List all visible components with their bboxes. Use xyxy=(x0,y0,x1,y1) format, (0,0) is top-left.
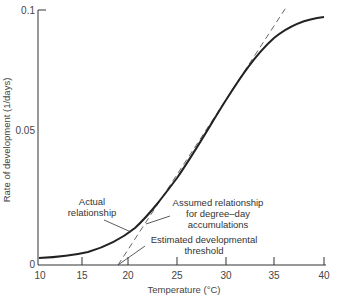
x-tick-label: 10 xyxy=(34,270,46,281)
annotation-assumed-line1: Assumed relationship xyxy=(173,197,264,208)
x-tick-label: 30 xyxy=(220,270,232,281)
chart: 0.1 0.05 0 10 15 20 25 30 35 40 Temperat… xyxy=(0,0,342,298)
y-tick-label: 0 xyxy=(29,259,35,270)
axes xyxy=(38,10,326,265)
annotation-threshold-line2: threshold xyxy=(184,245,223,256)
y-tick-label: 0.05 xyxy=(16,125,36,136)
x-tick-label: 40 xyxy=(318,270,330,281)
x-tick-label: 15 xyxy=(76,270,88,281)
annotation-assumed-line3: accumulations xyxy=(188,219,249,230)
actual-relationship-curve xyxy=(39,17,324,258)
x-axis-title: Temperature (°C) xyxy=(148,284,221,295)
annotation-actual-line2: relationship xyxy=(68,207,117,218)
y-axis-title: Rate of development (1/days) xyxy=(1,78,12,203)
x-tick-label: 25 xyxy=(171,270,183,281)
annotation-assumed-line2: for degree–day xyxy=(186,208,250,219)
annotation-actual-line1: Actual xyxy=(79,196,105,207)
annotation-threshold-line1: Estimated developmental xyxy=(151,234,258,245)
x-tick-label: 35 xyxy=(268,270,280,281)
annotation-leader-assumed xyxy=(146,216,170,224)
y-tick-label: 0.1 xyxy=(21,5,35,16)
x-tick-label: 20 xyxy=(122,270,134,281)
annotation-leader-actual xyxy=(104,220,131,232)
annotation-leader-threshold xyxy=(118,246,145,265)
